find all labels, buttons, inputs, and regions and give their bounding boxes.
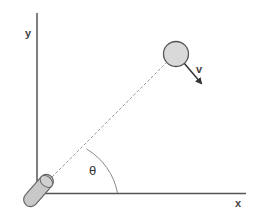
y-axis-label: y <box>25 28 31 39</box>
angle-label: θ <box>89 164 96 177</box>
projectile-diagram: y x v θ <box>0 0 257 215</box>
ball-icon <box>164 42 189 67</box>
cannon-icon <box>21 172 56 210</box>
x-axis-label: x <box>235 198 241 209</box>
trajectory-dashed-line <box>52 63 166 177</box>
velocity-label: v <box>196 64 202 75</box>
